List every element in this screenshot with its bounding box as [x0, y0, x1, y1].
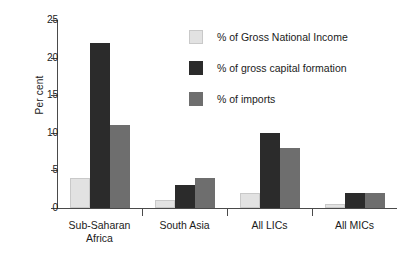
category-separator	[227, 209, 228, 216]
category-separator	[312, 209, 313, 216]
y-tick: 5	[0, 170, 58, 171]
category-separator	[142, 209, 143, 216]
category-label: All MICs	[312, 219, 397, 232]
bar	[70, 178, 90, 208]
y-tick-label: 5	[12, 164, 58, 175]
bar	[110, 125, 130, 208]
chart-legend: % of Gross National Income% of gross cap…	[189, 26, 348, 119]
category-label: Sub-Saharan Africa	[57, 219, 142, 244]
y-tick-label: 10	[12, 127, 58, 138]
bar	[195, 178, 215, 208]
category-label: All LICs	[227, 219, 312, 232]
legend-item[interactable]: % of gross capital formation	[189, 57, 348, 79]
legend-item[interactable]: % of imports	[189, 88, 348, 110]
bar	[325, 204, 345, 208]
y-tick: 0	[0, 208, 58, 209]
bar	[260, 133, 280, 208]
bar	[365, 193, 385, 208]
y-tick: 20	[0, 58, 58, 59]
legend-item[interactable]: % of Gross National Income	[189, 26, 348, 48]
y-tick-label: 25	[12, 14, 58, 25]
y-tick: 15	[0, 95, 58, 96]
y-tick-label: 0	[12, 202, 58, 213]
bar	[155, 200, 175, 208]
legend-label: % of gross capital formation	[217, 62, 347, 74]
bar	[280, 148, 300, 208]
bar	[345, 193, 365, 208]
bar	[240, 193, 260, 208]
category-label: South Asia	[142, 219, 227, 232]
bar	[90, 43, 110, 208]
legend-swatch-icon	[189, 61, 203, 75]
y-tick-label: 20	[12, 52, 58, 63]
legend-swatch-icon	[189, 92, 203, 106]
bar-chart: Per cent 0510152025 Sub-Saharan AfricaSo…	[0, 0, 406, 254]
bar	[175, 185, 195, 208]
legend-label: % of imports	[217, 93, 275, 105]
legend-label: % of Gross National Income	[217, 31, 348, 43]
legend-swatch-icon	[189, 30, 203, 44]
y-tick: 10	[0, 133, 58, 134]
y-tick: 25	[0, 20, 58, 21]
y-tick-label: 15	[12, 89, 58, 100]
